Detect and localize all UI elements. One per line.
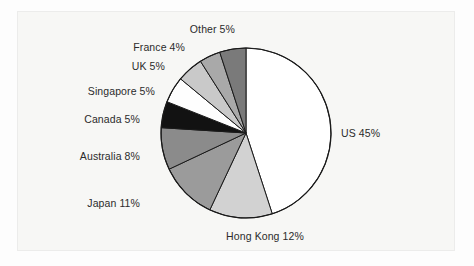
pie-label-uk-text: UK 5% — [132, 60, 165, 72]
pie-label-uk: UK 5% — [85, 60, 165, 72]
pie-slice-group — [161, 48, 331, 218]
pie-label-hong-kong: Hong Kong 12% — [205, 230, 325, 242]
pie-chart-svg — [0, 0, 474, 266]
pie-label-japan-text: Japan 11% — [87, 197, 140, 209]
pie-label-other: Other 5% — [135, 23, 235, 35]
pie-label-canada-text: Canada 5% — [84, 113, 140, 125]
pie-label-japan: Japan 11% — [55, 197, 140, 209]
pie-chart-figure: US 45% Hong Kong 12% Japan 11% Australia… — [0, 0, 474, 266]
pie-label-us: US 45% — [341, 127, 380, 139]
pie-label-france-text: France 4% — [133, 41, 185, 53]
pie-label-canada: Canada 5% — [45, 113, 140, 125]
pie-label-australia-text: Australia 8% — [80, 150, 140, 162]
pie-label-us-text: US 45% — [341, 127, 380, 139]
pie-label-singapore: Singapore 5% — [45, 85, 155, 97]
pie-label-australia: Australia 8% — [35, 150, 140, 162]
pie-label-hong-kong-text: Hong Kong 12% — [226, 230, 304, 242]
pie-label-france: France 4% — [95, 41, 185, 53]
pie-label-other-text: Other 5% — [190, 23, 235, 35]
pie-label-singapore-text: Singapore 5% — [88, 85, 155, 97]
